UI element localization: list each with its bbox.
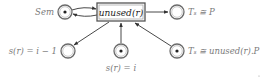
token-icon [63, 10, 66, 13]
transition-unused: unused(r) [97, 3, 145, 21]
arc-unused-to-sem [73, 14, 97, 16]
arc-ts-unused-p-to-unused [135, 23, 171, 46]
place-label-s-i: s(r) = i [106, 63, 137, 73]
token-icon [119, 49, 122, 52]
place-ts-unused-p: Tₛ ≅ unused(r).P [170, 44, 260, 58]
place-label-sem: Sem [35, 7, 54, 17]
arc-sem-to-unused [72, 8, 96, 10]
place-ts-p: Tₛ ≅ P [170, 5, 215, 19]
decorative-dot [258, 75, 259, 76]
place-label-ts-unused-p: Tₛ ≅ unused(r).P [188, 46, 260, 56]
arc-unused-to-s-i-minus-1 [74, 22, 109, 45]
place-label-ts-p: Tₛ ≅ P [188, 7, 215, 17]
transition-label: unused(r) [99, 8, 144, 18]
place-sem: Sem [35, 5, 72, 19]
place-s-i: s(r) = i [106, 44, 137, 73]
place-label-s-i-minus-1: s(r) = i − 1 [9, 46, 57, 56]
token-icon [175, 49, 178, 52]
petri-net-diagram: unused(r) Sem Tₛ ≅ P s(r) = i − 1 s(r) =… [0, 0, 264, 81]
place-s-i-minus-1: s(r) = i − 1 [9, 44, 75, 58]
